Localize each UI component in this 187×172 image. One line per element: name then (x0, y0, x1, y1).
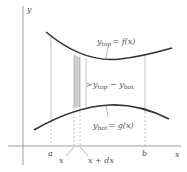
difference-label: ytop − ybot (92, 80, 134, 91)
shaded-strip (74, 55, 80, 108)
leader-x-dx (80, 147, 88, 156)
leader-top (106, 47, 108, 58)
tick-b: b (142, 149, 147, 158)
area-between-curves-diagram: y x > ytop= f(x) ytop − ybot ybot= g(x) … (0, 0, 187, 172)
bottom-curve-label: ybot= g(x) (92, 121, 134, 131)
y-axis-label: y (26, 5, 32, 14)
brace-mark: > (86, 81, 92, 89)
tick-x: x (59, 156, 64, 165)
tick-a: a (48, 149, 53, 158)
tick-x-plus-dx: x + dx (88, 156, 114, 165)
x-axis-label: x (175, 150, 180, 159)
leader-bot (106, 106, 108, 117)
top-curve-label: ytop= f(x) (96, 37, 135, 48)
leader-x (66, 147, 74, 156)
